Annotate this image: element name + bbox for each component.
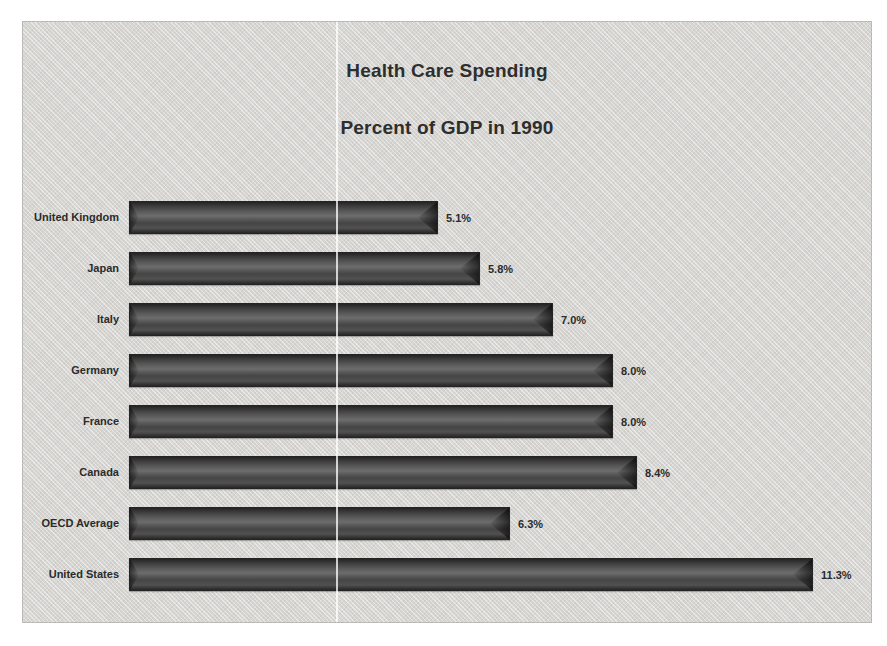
chart-title: Health Care Spending <box>23 60 871 82</box>
bar-rows: United Kingdom5.1%Japan5.8%Italy7.0%Germ… <box>23 192 871 600</box>
value-label: 8.4% <box>645 467 670 479</box>
bar-bevel-right <box>460 253 479 284</box>
bar-row: United States11.3% <box>23 549 871 600</box>
bar-row: France8.0% <box>23 396 871 447</box>
bar <box>129 252 480 285</box>
category-label: France <box>23 415 119 427</box>
bar-row: Germany8.0% <box>23 345 871 396</box>
bar-bevel-left <box>130 355 139 386</box>
bar-row: United Kingdom5.1% <box>23 192 871 243</box>
bar-bevel-left <box>130 202 139 233</box>
category-label: Germany <box>23 364 119 376</box>
bar-bevel-left <box>130 457 139 488</box>
bar-bevel-right <box>593 355 612 386</box>
category-label: Japan <box>23 262 119 274</box>
scanned-chart-page: Health Care Spending Percent of GDP in 1… <box>0 0 887 646</box>
bar <box>129 354 613 387</box>
chart-subtitle: Percent of GDP in 1990 <box>23 117 871 139</box>
bar <box>129 201 438 234</box>
value-label: 11.3% <box>821 569 852 581</box>
bar <box>129 507 510 540</box>
bar-bevel-right <box>418 202 437 233</box>
bar-bevel-left <box>130 559 139 590</box>
bar-bevel-right <box>490 508 509 539</box>
bar-row: Canada8.4% <box>23 447 871 498</box>
bar-bevel-left <box>130 508 139 539</box>
bar <box>129 456 637 489</box>
bar-bevel-left <box>130 253 139 284</box>
chart-header: Health Care Spending Percent of GDP in 1… <box>23 60 871 139</box>
bar-bevel-right <box>533 304 552 335</box>
value-label: 6.3% <box>518 518 543 530</box>
bar-row: OECD Average6.3% <box>23 498 871 549</box>
bar-row: Italy7.0% <box>23 294 871 345</box>
value-label: 8.0% <box>621 416 646 428</box>
bar-bevel-left <box>130 406 139 437</box>
bar-row: Japan5.8% <box>23 243 871 294</box>
value-label: 5.1% <box>446 212 471 224</box>
bar-bevel-right <box>593 406 612 437</box>
bar-bevel-right <box>617 457 636 488</box>
bar <box>129 405 613 438</box>
category-label: United Kingdom <box>23 211 119 223</box>
bar <box>129 303 553 336</box>
chart-canvas: Health Care Spending Percent of GDP in 1… <box>22 21 872 623</box>
category-label: Canada <box>23 466 119 478</box>
bar <box>129 558 813 591</box>
category-label: Italy <box>23 313 119 325</box>
category-label: OECD Average <box>23 517 119 529</box>
value-label: 5.8% <box>488 263 513 275</box>
bar-bevel-right <box>793 559 812 590</box>
bar-bevel-left <box>130 304 139 335</box>
value-label: 7.0% <box>561 314 586 326</box>
value-label: 8.0% <box>621 365 646 377</box>
category-label: United States <box>23 568 119 580</box>
